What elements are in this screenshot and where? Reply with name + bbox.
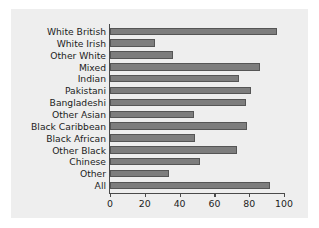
x-axis-tick [110, 193, 111, 197]
x-axis-tick [284, 193, 285, 197]
bar [110, 122, 247, 129]
bar [110, 182, 270, 189]
x-axis-tick [214, 193, 215, 197]
x-axis-tick-label: 100 [275, 199, 293, 208]
bar-row: Other Asian [110, 109, 284, 121]
x-axis-tick-label: 80 [243, 199, 255, 208]
bar-row: All [110, 180, 284, 192]
x-axis-tick [249, 193, 250, 197]
category-label: Other Asian [52, 110, 106, 119]
x-axis-tick-label: 20 [139, 199, 151, 208]
bar [110, 134, 195, 141]
x-axis-tick [145, 193, 146, 197]
bar [110, 75, 239, 82]
bar [110, 63, 260, 70]
plot-area: White BritishWhite IrishOther WhiteMixed… [110, 26, 284, 192]
bar-row: White Irish [110, 38, 284, 50]
category-label: Bangladeshi [50, 98, 106, 107]
bar [110, 99, 246, 106]
bar [110, 39, 155, 46]
category-label: Other Black [52, 146, 106, 155]
x-axis-tick-label: 60 [208, 199, 220, 208]
category-label: Black African [46, 134, 106, 143]
category-label: White Irish [57, 39, 106, 48]
bar [110, 170, 169, 177]
bar-chart-figure: White BritishWhite IrishOther WhiteMixed… [11, 9, 308, 218]
bar [110, 158, 200, 165]
category-label: Chinese [69, 158, 106, 167]
bar-row: Other White [110, 50, 284, 62]
bar-row: Chinese [110, 156, 284, 168]
bar-row: White British [110, 26, 284, 38]
x-axis-tick [180, 193, 181, 197]
bar-row: Bangladeshi [110, 97, 284, 109]
bar-row: Other [110, 168, 284, 180]
category-label: Mixed [79, 63, 106, 72]
bar [110, 87, 251, 94]
bar-row: Mixed [110, 62, 284, 74]
bar [110, 111, 194, 118]
bar-row: Black African [110, 133, 284, 145]
bar-row: Black Caribbean [110, 121, 284, 133]
category-label: Other [80, 170, 106, 179]
category-label: Pakistani [65, 87, 106, 96]
bar-row: Pakistani [110, 85, 284, 97]
x-axis-tick-label: 0 [107, 199, 113, 208]
bar-row: Other Black [110, 145, 284, 157]
category-label: Black Caribbean [31, 122, 106, 131]
category-label: Indian [78, 75, 106, 84]
category-label: Other White [50, 51, 106, 60]
bar [110, 146, 237, 153]
category-label: All [95, 181, 106, 190]
bar-row: Indian [110, 73, 284, 85]
x-axis-tick-label: 40 [174, 199, 186, 208]
value-axis-line [109, 193, 285, 194]
bar [110, 28, 277, 35]
bar [110, 51, 173, 58]
category-label: White British [47, 27, 106, 36]
